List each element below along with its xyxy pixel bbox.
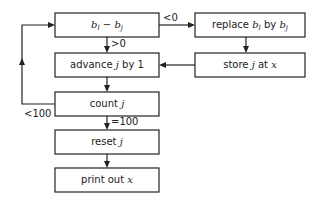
- edge-compare-to-advance: [104, 37, 110, 53]
- label-text: count: [90, 98, 121, 109]
- label-text: −: [100, 19, 115, 30]
- node-reset-label: reset j: [91, 136, 123, 148]
- flowchart: bl − bj advance j by 1 replace bl by bj …: [0, 0, 316, 203]
- label-text: print out: [81, 174, 127, 185]
- label-text: advance: [70, 59, 116, 70]
- node-replace-label: replace bl by bj: [212, 19, 289, 32]
- node-print-label: print out x: [81, 174, 133, 186]
- label-text: replace: [212, 19, 252, 30]
- edge-label-lt100: <100: [24, 108, 51, 119]
- node-replace: replace bl by bj: [195, 13, 305, 37]
- edge-advance-to-count: [104, 77, 110, 92]
- node-count-label: count j: [90, 98, 125, 110]
- node-reset: reset j: [55, 130, 159, 154]
- edge-label-gt0: >0: [111, 38, 126, 49]
- node-advance-label: advance j by 1: [70, 59, 144, 71]
- edge-label-eq100: =100: [111, 116, 138, 127]
- edge-count-to-reset: [104, 116, 110, 130]
- label-text: reset: [91, 136, 120, 147]
- edge-reset-to-print: [104, 154, 110, 168]
- node-store-label: store j at x: [223, 59, 277, 71]
- label-text: at: [255, 59, 271, 70]
- label-variable: x: [127, 174, 133, 185]
- node-compare: bl − bj: [55, 13, 159, 37]
- node-count: count j: [55, 92, 159, 116]
- label-text: by 1: [119, 59, 144, 70]
- edge-count-to-compare-loop: [19, 22, 55, 104]
- edge-label-lt0: <0: [163, 12, 178, 23]
- edge-replace-to-store: [243, 37, 249, 53]
- label-text: store: [223, 59, 251, 70]
- edge-store-to-advance: [159, 62, 195, 68]
- label-text: by: [261, 19, 280, 30]
- node-print: print out x: [55, 168, 159, 192]
- label-variable: x: [271, 59, 277, 70]
- node-store: store j at x: [195, 53, 305, 77]
- node-advance: advance j by 1: [55, 53, 159, 77]
